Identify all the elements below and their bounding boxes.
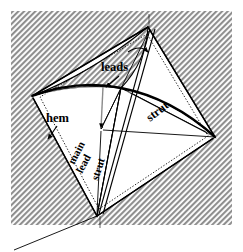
label-leads: leads [101, 60, 128, 74]
label-hem: hem [46, 111, 70, 125]
kite-structure-diagram: leads hem strut main lead strut [0, 0, 243, 252]
diagram-canvas: leads hem strut main lead strut [0, 0, 243, 252]
